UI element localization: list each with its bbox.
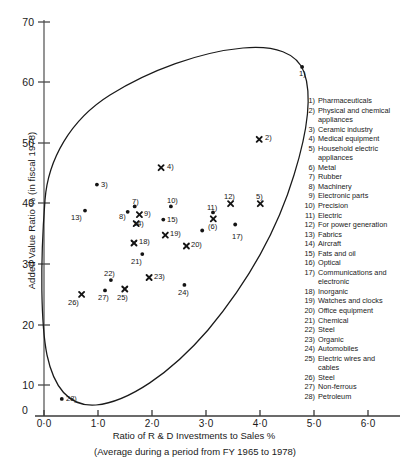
data-point-dot <box>60 397 64 401</box>
legend-number: 23) <box>300 335 318 345</box>
legend-number: 1) <box>300 96 318 106</box>
legend-item: 18)Inorganic <box>300 287 407 297</box>
enclosing-ellipse <box>42 47 308 405</box>
data-point-dot <box>233 223 237 227</box>
legend-number: 10) <box>300 201 318 211</box>
legend-item: 1)Pharmaceuticals <box>300 96 407 106</box>
point-label-10: 10) <box>167 197 178 205</box>
x-tick-label: 0·0 <box>27 419 61 429</box>
data-point-dot <box>161 218 165 222</box>
point-label-4: 4) <box>167 163 174 171</box>
point-label-9: 9) <box>144 210 151 218</box>
data-point-dot <box>200 229 204 233</box>
point-label-15: 15) <box>167 216 178 224</box>
legend-text: Chemical <box>318 316 407 326</box>
legend-number: 6) <box>300 163 318 173</box>
legend-number: 11) <box>300 211 318 221</box>
x-tick-label: 1·0 <box>81 419 115 429</box>
legend-text-continued: appliances <box>300 153 407 163</box>
legend-item: 23)Organic <box>300 335 407 345</box>
point-label-12: 12) <box>224 193 235 201</box>
legend-text: Fats and oil <box>318 249 407 259</box>
legend-text: Electric wires and <box>318 354 407 364</box>
legend-number: 5) <box>300 144 318 154</box>
point-label-17: 17) <box>232 233 243 241</box>
legend-item: 2)Physical and chemical <box>300 106 407 116</box>
legend-item: 12)For power generation <box>300 220 407 230</box>
legend-item: 8)Machinery <box>300 182 407 192</box>
legend-number: 14) <box>300 239 318 249</box>
legend-text: Metal <box>318 163 407 173</box>
point-label-20: 20) <box>191 241 202 249</box>
point-label-26: 26) <box>68 299 79 307</box>
point-label-13: 13) <box>71 214 82 222</box>
point-label-27: 27) <box>98 294 109 302</box>
legend: 1)Pharmaceuticals 2)Physical and chemica… <box>300 96 407 402</box>
data-point-dot <box>183 283 187 287</box>
y-tick-label: 20 <box>8 320 34 330</box>
data-point-dot <box>169 205 173 209</box>
point-label-19: 19) <box>170 230 181 238</box>
legend-item: 14)Aircraft <box>300 239 407 249</box>
x-tick-label: 3·0 <box>189 419 223 429</box>
legend-text: Steel <box>318 373 407 383</box>
legend-item: 22)Steel <box>300 325 407 335</box>
legend-number: 19) <box>300 296 318 306</box>
legend-number: 12) <box>300 220 318 230</box>
data-markers <box>60 65 304 401</box>
x-axis-title: Ratio of R & D Investments to Sales % <box>44 430 344 441</box>
legend-item: 20)Office equipment <box>300 306 407 316</box>
data-point-cross <box>147 275 152 280</box>
y-tick-label: 70 <box>8 17 34 27</box>
point-label-28: 28) <box>66 395 77 403</box>
legend-text: Ceramic industry <box>318 125 407 135</box>
legend-text: Petroleum <box>318 392 407 402</box>
legend-text: Automobiles <box>318 344 407 354</box>
legend-text: Physical and chemical <box>318 106 407 116</box>
legend-text: Office equipment <box>318 306 407 316</box>
legend-item: 6)Metal <box>300 163 407 173</box>
legend-text: Machinery <box>318 182 407 192</box>
point-label-14: 14) <box>133 220 144 228</box>
data-point-cross <box>137 212 142 217</box>
legend-item: 11)Electric <box>300 211 407 221</box>
data-point-dot <box>109 278 113 282</box>
y-tick-label: 10 <box>8 380 34 390</box>
data-point-dot <box>126 210 130 214</box>
point-label-3: 3) <box>101 181 108 189</box>
y-axis-title: Added Value Ratio % (in fiscal 1978) <box>26 116 37 306</box>
legend-text: For power generation <box>318 220 407 230</box>
legend-item: 5)Household electric <box>300 144 407 154</box>
legend-item: 28)Petroleum <box>300 392 407 402</box>
legend-item: 10)Precision <box>300 201 407 211</box>
legend-number: 2) <box>300 106 318 116</box>
data-point-cross <box>163 233 168 238</box>
legend-text: Electric <box>318 211 407 221</box>
chart-figure: 70 60 50 40 30 20 10 0 0·0 1·0 2·0 3·0 4… <box>0 0 407 462</box>
legend-number: 13) <box>300 230 318 240</box>
data-point-dot <box>140 252 144 256</box>
legend-item: 16)Optical <box>300 258 407 268</box>
x-axis-subtitle: (Average during a period from FY 1965 to… <box>30 446 360 457</box>
legend-number: 28) <box>300 392 318 402</box>
y-tick-label: 60 <box>8 77 34 87</box>
legend-text: Pharmaceuticals <box>318 96 407 106</box>
data-point-cross <box>159 165 164 170</box>
legend-text: Fabrics <box>318 230 407 240</box>
data-point-cross <box>211 216 216 221</box>
legend-item: 26)Steel <box>300 373 407 383</box>
legend-text: Optical <box>318 258 407 268</box>
point-label-1: 1) <box>299 70 306 78</box>
x-tick-label: 2·0 <box>135 419 169 429</box>
legend-item: 21)Chemical <box>300 316 407 326</box>
point-label-11: 11) <box>207 204 217 212</box>
legend-text-continued: electronic <box>300 277 407 287</box>
legend-text: Communications and <box>318 268 407 278</box>
legend-number: 20) <box>300 306 318 316</box>
legend-text: Organic <box>318 335 407 345</box>
x-tick-label: 6·0 <box>351 419 385 429</box>
legend-item: 15)Fats and oil <box>300 249 407 259</box>
legend-item: 13)Fabrics <box>300 230 407 240</box>
legend-text: Precision <box>318 201 407 211</box>
data-point-dot <box>103 289 107 293</box>
